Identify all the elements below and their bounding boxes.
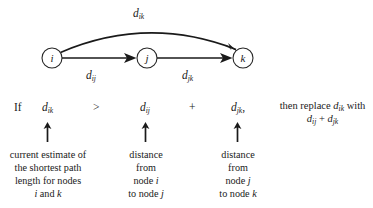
node-name-italic: i: [156, 175, 159, 186]
edge-ij-label: dij: [86, 70, 96, 82]
caption-dij-line-3: node i: [106, 174, 186, 187]
caption-dik-line-4: i and k: [0, 187, 96, 200]
formula-operator-gt: >: [93, 102, 100, 114]
formula-term-djk-punct: ,: [242, 101, 245, 113]
edge-ij-label-sub: ij: [92, 74, 96, 83]
formula-term-dij: dij: [140, 102, 150, 114]
arc-edge-ik-label-sub: ik: [139, 12, 144, 21]
node-name-italic: i: [34, 188, 37, 199]
figure-canvas: i j k dik dij djk If dik > dij + djk, th…: [0, 0, 373, 208]
caption-dik-line-2: the shortest path: [0, 161, 96, 174]
caption-djk-line-1: distance: [198, 148, 278, 161]
formula-conclusion-target: dik: [333, 100, 344, 111]
caption-dij-line-1: distance: [106, 148, 186, 161]
caption-djk-line-4: to node k: [198, 187, 278, 200]
caption-arrow-djk: [233, 122, 242, 142]
caption-djk-line-3: node j: [198, 174, 278, 187]
formula-conclusion: then replace dik with dij + djk: [272, 99, 373, 125]
formula-operator-plus: +: [189, 102, 196, 114]
graph-diagram: i j k: [0, 0, 373, 96]
formula-conclusion-result-plus: +: [319, 113, 325, 124]
formula-conclusion-tail: with: [347, 100, 366, 111]
formula-conclusion-target-sub: ik: [339, 104, 344, 113]
formula-term-dik-base: d: [42, 101, 48, 113]
caption-dij: distance from node i to node j: [106, 148, 186, 200]
edge-jk-label-sub: jk: [188, 74, 193, 83]
caption-dik-line-3: length for nodes: [0, 174, 96, 187]
formula-term-djk: djk,: [231, 102, 245, 114]
node-name-italic: j: [248, 175, 251, 186]
caption-arrow-dik: [43, 122, 52, 142]
formula-term-dik-sub: ik: [48, 106, 53, 115]
formula-conclusion-lead: then replace: [280, 100, 331, 111]
caption-djk: distance from node j to node k: [198, 148, 278, 200]
edge-ij-label-base: d: [86, 69, 92, 81]
formula-conclusion-target-base: d: [333, 100, 338, 111]
arc-edge-ik-label-base: d: [133, 7, 139, 19]
edge-jk-label: djk: [182, 70, 193, 82]
conjunction: and: [40, 188, 55, 199]
formula-term-dij-sub: ij: [146, 106, 150, 115]
node-name-italic: j: [161, 188, 164, 199]
caption-djk-line-2: from: [198, 161, 278, 174]
formula-term-dik: dik: [42, 102, 53, 114]
caption-arrow-dij: [141, 122, 150, 142]
node-i-label: i: [50, 52, 53, 64]
formula-term-djk-sub: jk: [237, 106, 242, 115]
caption-dij-line-4: to node j: [106, 187, 186, 200]
node-name-italic: k: [57, 188, 62, 199]
caption-dij-line-2: from: [106, 161, 186, 174]
formula-conclusion-result: dij + djk: [272, 112, 373, 125]
formula-conclusion-result-sub1: ij: [312, 117, 316, 126]
node-name-italic: k: [252, 188, 257, 199]
caption-dik: current estimate of the shortest path le…: [0, 148, 96, 200]
caption-dik-line-1: current estimate of: [0, 148, 96, 161]
formula-term-djk-base: d: [231, 101, 237, 113]
formula-term-dij-base: d: [140, 101, 146, 113]
arc-edge-ik-label: dik: [133, 8, 144, 20]
formula-if-word: If: [14, 102, 22, 114]
formula-conclusion-result-sub2: jk: [333, 117, 338, 126]
edge-jk-label-base: d: [182, 69, 188, 81]
formula-conclusion-result-base2: d: [327, 113, 332, 124]
